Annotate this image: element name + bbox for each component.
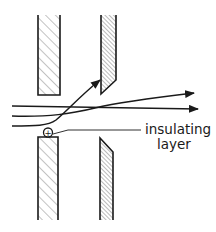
lower-right-plate: [100, 138, 113, 220]
diagram-canvas: + insulating layer: [0, 0, 216, 232]
lower-left-plate: [38, 137, 58, 220]
upper-right-plate: [101, 15, 116, 94]
annotation-leader-line: [53, 130, 141, 134]
upper-left-plate: [38, 15, 60, 95]
annotation-label-line1: insulating: [145, 121, 211, 137]
plus-charge-icon: +: [44, 128, 51, 138]
annotation-label-line2: layer: [157, 136, 191, 152]
deflected-beam: [12, 93, 194, 116]
insulating-layer-charge: +: [44, 128, 53, 138]
